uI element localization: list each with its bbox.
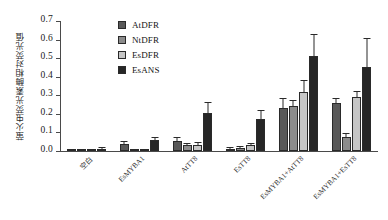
legend-label: EsDFR <box>132 50 159 60</box>
bar <box>362 67 371 151</box>
bar <box>279 108 288 151</box>
bar-fill <box>342 137 351 151</box>
error-bar <box>283 99 284 108</box>
bar-fill <box>309 56 318 151</box>
error-bar-cap <box>333 98 340 99</box>
bar-fill <box>140 149 149 151</box>
bar-group <box>219 21 272 151</box>
legend-item: EsDFR <box>118 47 160 62</box>
error-bar-cap <box>363 38 370 39</box>
bar-fill <box>87 149 96 151</box>
bar-fill <box>97 149 106 151</box>
legend-swatch <box>118 66 126 74</box>
error-bar-cap <box>227 147 234 148</box>
chart-figure: 萤火虫荧光素酶相对荧光值 0.00.10.20.30.40.50.60.7 空白… <box>0 0 388 220</box>
legend-swatch <box>118 21 126 29</box>
legend-label: NtDFR <box>132 35 159 45</box>
bar <box>342 137 351 151</box>
error-bar-cap <box>204 102 211 103</box>
y-axis-tick-label: 0.2 <box>41 107 53 117</box>
error-bar <box>197 143 198 144</box>
error-bar <box>336 99 337 103</box>
bar <box>299 92 308 151</box>
bar-group <box>272 21 325 151</box>
legend-label: AtDFR <box>132 20 159 30</box>
legend-item: AtDFR <box>118 17 160 32</box>
error-bar-cap <box>151 137 158 138</box>
bar <box>256 119 265 151</box>
error-bar-cap <box>280 98 287 99</box>
x-axis-line <box>60 151 378 152</box>
error-bar <box>250 144 251 145</box>
error-bar-cap <box>194 142 201 143</box>
y-axis-tick-label: 0.1 <box>41 125 53 135</box>
bar-fill <box>332 103 341 151</box>
bar-fill <box>173 141 182 151</box>
bar <box>77 150 86 151</box>
bar-group <box>60 21 113 151</box>
error-bar-cap <box>184 143 191 144</box>
bar-fill <box>299 92 308 151</box>
error-bar <box>154 138 155 140</box>
bar <box>67 150 76 151</box>
legend-swatch <box>118 36 126 44</box>
error-bar <box>303 81 304 92</box>
error-bar-cap <box>121 141 128 142</box>
bar-fill <box>246 145 255 151</box>
bar-fill <box>279 108 288 151</box>
bar <box>87 150 96 151</box>
error-bar <box>346 134 347 137</box>
bar-fill <box>67 149 76 151</box>
bar <box>246 145 255 151</box>
bar-fill <box>150 140 159 151</box>
legend-label: EsANS <box>132 65 160 75</box>
bar-group <box>166 21 219 151</box>
bar <box>309 56 318 151</box>
bar-fill <box>193 145 202 152</box>
error-bar <box>187 144 188 145</box>
bar <box>150 140 159 151</box>
error-bar-cap <box>353 91 360 92</box>
bar-fill <box>226 149 235 151</box>
error-bar <box>240 147 241 148</box>
bar <box>193 145 202 152</box>
error-bar-cap <box>290 100 297 101</box>
error-bar <box>313 35 314 56</box>
error-bar-cap <box>247 143 254 144</box>
error-bar <box>293 101 294 105</box>
bar-fill <box>289 106 298 152</box>
bar <box>130 149 139 151</box>
y-axis-tick-label: 0.4 <box>41 70 53 80</box>
legend-item: NtDFR <box>118 32 160 47</box>
error-bar-cap <box>310 34 317 35</box>
chart-legend: AtDFRNtDFREsDFREsANS <box>118 17 160 77</box>
y-axis-tick-label: 0.5 <box>41 51 53 61</box>
error-bar-cap <box>257 110 264 111</box>
bar <box>226 149 235 151</box>
y-axis-tick-label: 0.0 <box>41 144 53 154</box>
error-bar-cap <box>237 146 244 147</box>
bar-fill <box>352 97 361 151</box>
error-bar <box>124 142 125 144</box>
legend-swatch <box>118 51 126 59</box>
bar <box>183 145 192 151</box>
y-axis-tick-label: 0.7 <box>41 14 53 24</box>
error-bar <box>207 103 208 113</box>
bar <box>203 113 212 151</box>
bar-fill <box>130 149 139 151</box>
error-bar <box>366 39 367 67</box>
y-axis-title: 萤火虫荧光素酶相对荧光值 <box>14 20 28 152</box>
error-bar <box>230 148 231 149</box>
y-axis-tick-label: 0.3 <box>41 88 53 98</box>
error-bar-cap <box>98 147 105 148</box>
error-bar <box>101 148 102 149</box>
bar-fill <box>362 67 371 151</box>
bar <box>236 148 245 151</box>
error-bar-cap <box>300 80 307 81</box>
error-bar-cap <box>174 137 181 138</box>
legend-item: EsANS <box>118 62 160 77</box>
bar-fill <box>183 145 192 151</box>
bar-fill <box>203 113 212 151</box>
plot-area <box>60 21 378 151</box>
y-axis-tick-label: 0.6 <box>41 33 53 43</box>
